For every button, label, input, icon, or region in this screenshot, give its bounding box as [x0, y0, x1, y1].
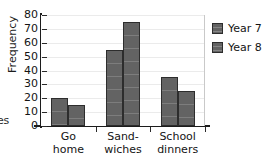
bar-year-8-school-dinners [178, 91, 195, 126]
y-axis-tick-label: 40 [16, 65, 38, 76]
y-axis-tick-mark [42, 15, 47, 16]
y-axis-tick-mark [42, 84, 47, 85]
x-axis-category-separator [205, 127, 206, 132]
y-axis-tick-label: 30 [16, 78, 38, 89]
bar-year-7-school-dinners [161, 77, 178, 126]
y-axis-tick-mark [42, 71, 47, 72]
y-axis-tick-mark [42, 112, 47, 113]
x-axis-label-line: dinners [144, 143, 212, 156]
y-axis-tick-mark [42, 43, 47, 44]
y-axis-tick-mark [42, 29, 47, 30]
bar-year-7-sand-wiches [106, 50, 123, 126]
legend-swatch-icon [212, 42, 223, 53]
legend-swatch-icon [212, 23, 223, 34]
y-axis-tick-label: 70 [16, 23, 38, 34]
y-axis-tick-label: 20 [16, 92, 38, 103]
x-axis-label-line: School [144, 130, 212, 143]
bar-year-8-go-home [68, 105, 85, 126]
y-axis-tick-mark [42, 126, 47, 127]
y-axis-tick-label: 10 [16, 106, 38, 117]
legend-item-year-8: Year 8 [212, 41, 269, 54]
legend-label: Year 7 [228, 22, 262, 35]
y-axis-tick-label: 60 [16, 37, 38, 48]
bar-year-8-sand-wiches [123, 22, 140, 126]
bar-year-7-go-home [51, 98, 68, 126]
y-axis-tick-mark [42, 98, 47, 99]
gridline [41, 15, 204, 16]
y-axis-tick-mark [42, 57, 47, 58]
x-axis-category-label: Schooldinners [144, 130, 212, 156]
y-axis-tick-label: 50 [16, 51, 38, 62]
chart-legend: Year 7Year 8 [212, 22, 269, 60]
y-axis-tick-label: 80 [16, 9, 38, 20]
legend-label: Year 8 [228, 41, 262, 54]
legend-item-year-7: Year 7 [212, 22, 269, 35]
